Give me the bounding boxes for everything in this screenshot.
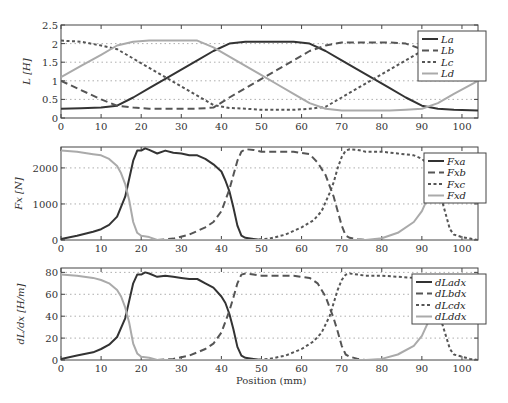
y-tick-label: 60 xyxy=(45,289,58,300)
x-tick-label: 80 xyxy=(375,243,388,254)
legend-entry: Ld xyxy=(440,68,454,79)
legend-entry: dLcdx xyxy=(435,300,466,311)
y-axis-label: Fx [N] xyxy=(13,177,24,210)
y-tick-label: 1.5 xyxy=(42,57,58,68)
x-tick-label: 70 xyxy=(335,243,348,254)
x-tick-label: 10 xyxy=(95,121,108,132)
x-tick-label: 60 xyxy=(295,121,308,132)
series-line-ld xyxy=(61,41,478,111)
x-tick-label: 10 xyxy=(95,243,108,254)
figure-canvas: 010203040506070809010000.511.522.5L [H]L… xyxy=(0,0,508,403)
series-line-lb xyxy=(61,43,478,109)
legend-entry: dLddx xyxy=(435,311,467,322)
x-tick-label: 90 xyxy=(415,121,428,132)
x-tick-label: 0 xyxy=(58,363,64,374)
x-tick-label: 0 xyxy=(58,243,64,254)
x-tick-label: 60 xyxy=(295,243,308,254)
plot-frame xyxy=(61,25,478,118)
x-tick-label: 60 xyxy=(295,363,308,374)
y-tick-label: 0 xyxy=(52,113,58,124)
y-axis-label: L [H] xyxy=(21,58,32,85)
legend-entry: Lb xyxy=(440,45,454,56)
y-tick-label: 2 xyxy=(52,39,58,50)
x-tick-label: 20 xyxy=(135,363,148,374)
y-tick-label: 0 xyxy=(52,235,58,246)
legend-entry: Lc xyxy=(440,57,454,68)
x-tick-label: 40 xyxy=(215,121,228,132)
x-tick-label: 100 xyxy=(452,363,471,374)
x-tick-label: 0 xyxy=(58,121,64,132)
plot-frame xyxy=(61,147,478,240)
chart-panel-1: 010203040506070809010000.511.522.5L [H]L… xyxy=(21,20,486,132)
x-axis-label: Position (mm) xyxy=(236,375,306,386)
y-tick-label: 80 xyxy=(45,267,58,278)
y-axis-label: dL/dx [H/m] xyxy=(15,283,26,344)
y-tick-label: 2000 xyxy=(33,163,58,174)
x-tick-label: 50 xyxy=(255,121,268,132)
y-tick-label: 40 xyxy=(45,311,58,322)
x-tick-label: 50 xyxy=(255,363,268,374)
legend-entry: Fxc xyxy=(446,179,466,190)
series-line-fxb xyxy=(157,149,366,240)
x-tick-label: 40 xyxy=(215,363,228,374)
legend: LaLbLcLd xyxy=(418,31,486,81)
y-tick-label: 0.5 xyxy=(42,94,58,105)
x-tick-label: 100 xyxy=(452,243,471,254)
legend-entry: Fxb xyxy=(446,167,466,178)
series-line-la xyxy=(61,42,478,111)
y-tick-label: 20 xyxy=(45,333,58,344)
y-tick-label: 1 xyxy=(52,76,58,87)
x-tick-label: 90 xyxy=(415,363,428,374)
y-tick-label: 1000 xyxy=(33,199,58,210)
x-tick-label: 80 xyxy=(375,121,388,132)
x-tick-label: 20 xyxy=(135,243,148,254)
legend-entry: dLadx xyxy=(435,277,466,288)
legend-entry: dLbdx xyxy=(435,288,467,299)
x-tick-label: 40 xyxy=(215,243,228,254)
series-line-dlddx xyxy=(61,275,438,360)
x-tick-label: 10 xyxy=(95,363,108,374)
series-line-dlbdx xyxy=(157,274,366,361)
legend-entry: Fxd xyxy=(446,190,466,201)
chart-panel-2: 0102030405060708090100010002000Fx [N]Fxa… xyxy=(13,147,486,254)
chart-panel-3: 0102030405060708090100020406080dL/dx [H/… xyxy=(15,267,486,374)
y-tick-label: 0 xyxy=(52,355,58,366)
legend: dLadxdLbdxdLcdxdLddx xyxy=(412,274,486,324)
x-tick-label: 80 xyxy=(375,363,388,374)
series-line-fxd xyxy=(61,151,438,240)
x-tick-label: 100 xyxy=(452,121,471,132)
legend-entry: La xyxy=(440,34,454,45)
x-tick-label: 90 xyxy=(415,243,428,254)
x-tick-label: 20 xyxy=(135,121,148,132)
x-tick-label: 50 xyxy=(255,243,268,254)
y-tick-label: 2.5 xyxy=(42,20,58,31)
series-line-fxa xyxy=(61,148,270,240)
x-tick-label: 30 xyxy=(175,363,188,374)
x-tick-label: 30 xyxy=(175,121,188,132)
x-tick-label: 70 xyxy=(335,121,348,132)
x-tick-label: 30 xyxy=(175,243,188,254)
legend: FxaFxbFxcFxd xyxy=(424,153,486,203)
legend-entry: Fxa xyxy=(446,156,466,167)
x-tick-label: 70 xyxy=(335,363,348,374)
